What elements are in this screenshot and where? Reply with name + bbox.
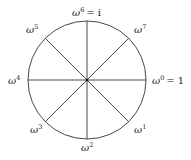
spoke-7 (87, 38, 129, 80)
circle-geometry (28, 21, 146, 139)
label-w6: ω6 = i (72, 6, 101, 18)
label-w3: ω3 (30, 123, 42, 135)
root-labels: ω0 = 1ω1ω2ω3ω4ω5ω6 = iω7 (8, 6, 184, 153)
label-w5: ω5 (26, 23, 38, 35)
label-w1: ω1 (134, 123, 146, 135)
label-w2: ω2 (81, 141, 93, 153)
label-w7: ω7 (134, 23, 146, 35)
label-w0: ω0 = 1 (152, 74, 184, 86)
spoke-3 (45, 80, 87, 122)
label-w4: ω4 (8, 74, 20, 86)
roots-of-unity-diagram: ω0 = 1ω1ω2ω3ω4ω5ω6 = iω7 (0, 0, 191, 160)
spoke-1 (87, 80, 129, 122)
spoke-5 (45, 38, 87, 80)
center-point (86, 79, 89, 82)
